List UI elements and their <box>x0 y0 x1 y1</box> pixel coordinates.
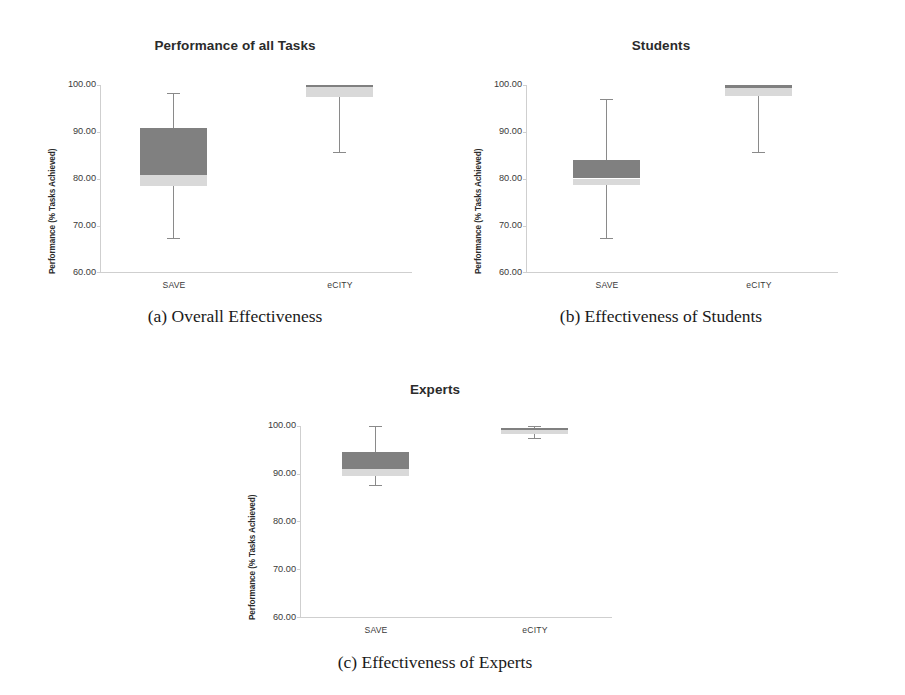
panel-caption-c: (c) Effectiveness of Experts <box>240 652 630 673</box>
box-median-q1-save <box>573 179 640 186</box>
whisker-cap-upper-ecity <box>528 426 541 427</box>
y-tick-label: 90.00 <box>52 126 96 136</box>
y-tick-label: 60.00 <box>52 267 96 277</box>
y-tick-mark <box>97 226 101 227</box>
y-tick-label: 100.00 <box>52 79 96 89</box>
y-tick-label: 70.00 <box>52 220 96 230</box>
y-tick-label: 90.00 <box>252 468 296 478</box>
whisker-lower-ecity <box>758 96 759 152</box>
whisker-lower-save <box>375 476 376 486</box>
whisker-lower-ecity <box>339 97 340 152</box>
y-tick-mark <box>97 179 101 180</box>
y-tick-label: 100.00 <box>252 420 296 430</box>
x-tick-label-save: SAVE <box>340 625 412 635</box>
y-tick-mark <box>523 85 527 86</box>
y-tick-mark <box>97 132 101 133</box>
box-median-q1-ecity <box>725 88 792 96</box>
y-tick-mark <box>297 617 301 618</box>
box-median-q1-save <box>342 469 409 476</box>
whisker-cap-lower-save <box>369 485 382 486</box>
chart-plot-area-b: Performance (% Tasks Achieved) 100.00 90… <box>466 34 856 294</box>
panel-caption-b: (b) Effectiveness of Students <box>466 306 856 327</box>
x-tick-label-save: SAVE <box>571 280 643 290</box>
y-tick-mark <box>523 226 527 227</box>
whisker-lower-save <box>173 186 174 239</box>
panel-caption-a: (a) Overall Effectiveness <box>40 306 430 327</box>
whisker-cap-upper-save <box>369 426 382 427</box>
y-tick-mark <box>523 132 527 133</box>
x-tick-label-ecity: eCITY <box>304 280 376 290</box>
box-median-q1-ecity <box>306 87 373 97</box>
y-tick-label: 70.00 <box>252 564 296 574</box>
box-q3-median-save <box>140 128 207 175</box>
whisker-cap-upper-save <box>167 93 180 94</box>
y-axis-title-a: Performance (% Tasks Achieved) <box>48 149 57 274</box>
x-axis-line <box>526 272 838 273</box>
y-tick-mark <box>97 272 101 273</box>
y-tick-label: 60.00 <box>252 612 296 622</box>
chart-plot-area-a: Performance (% Tasks Achieved) 100.00 90… <box>40 34 430 294</box>
x-tick-label-ecity: eCITY <box>499 625 571 635</box>
y-tick-label: 80.00 <box>478 173 522 183</box>
y-tick-mark <box>297 474 301 475</box>
y-tick-mark <box>97 85 101 86</box>
chart-plot-area-c: Performance (% Tasks Achieved) 100.00 90… <box>240 378 630 638</box>
whisker-cap-lower-ecity <box>333 152 346 153</box>
whisker-upper-save <box>375 426 376 452</box>
box-q3-median-save <box>573 160 640 179</box>
figure-panel-b: Students Performance (% Tasks Achieved) … <box>466 34 856 344</box>
y-axis-title-c: Performance (% Tasks Achieved) <box>248 495 257 620</box>
whisker-lower-save <box>606 185 607 238</box>
whisker-cap-upper-save <box>600 99 613 100</box>
y-tick-mark <box>523 179 527 180</box>
y-tick-label: 90.00 <box>478 126 522 136</box>
box-q3-median-save <box>342 452 409 469</box>
figure-panel-a: Performance of all Tasks Performance (% … <box>40 34 430 344</box>
whisker-upper-save <box>173 93 174 129</box>
y-tick-mark <box>297 521 301 522</box>
x-tick-label-save: SAVE <box>138 280 210 290</box>
y-tick-mark <box>297 569 301 570</box>
y-tick-label: 70.00 <box>478 220 522 230</box>
x-axis-line <box>100 272 412 273</box>
x-tick-label-ecity: eCITY <box>723 280 795 290</box>
figure-panel-c: Experts Performance (% Tasks Achieved) 1… <box>240 378 630 688</box>
y-tick-label: 100.00 <box>478 79 522 89</box>
whisker-cap-lower-ecity <box>752 152 765 153</box>
whisker-cap-lower-save <box>600 238 613 239</box>
y-tick-label: 80.00 <box>252 516 296 526</box>
whisker-cap-lower-save <box>167 238 180 239</box>
whisker-cap-lower-ecity <box>528 438 541 439</box>
y-tick-label: 80.00 <box>52 173 96 183</box>
whisker-upper-save <box>606 99 607 160</box>
y-tick-label: 60.00 <box>478 267 522 277</box>
y-axis-title-b: Performance (% Tasks Achieved) <box>474 149 483 274</box>
y-tick-mark <box>523 272 527 273</box>
y-tick-mark <box>297 426 301 427</box>
box-median-q1-save <box>140 175 207 186</box>
x-axis-line <box>300 617 612 618</box>
